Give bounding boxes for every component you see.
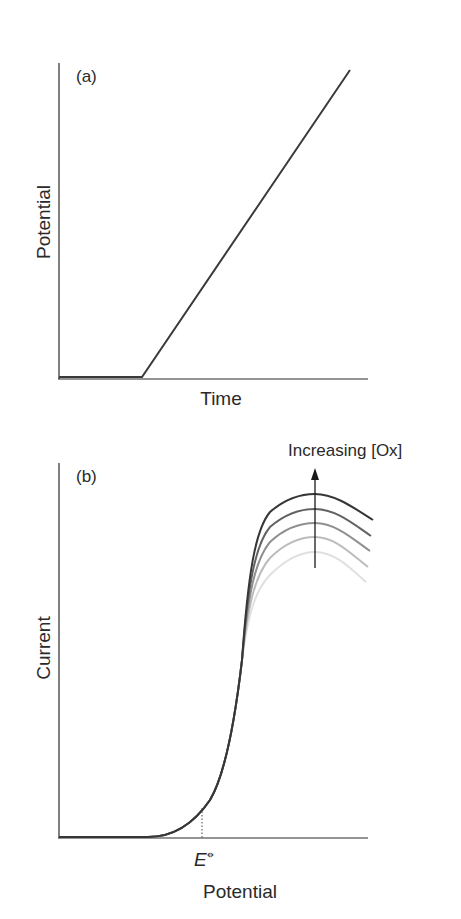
panel-b: (b) Current Potential Increasing [Ox] E … — [33, 441, 402, 902]
panel-a-ylabel: Potential — [33, 185, 54, 259]
panel-a-xlabel: Time — [200, 388, 242, 409]
panel-b-label: (b) — [76, 467, 97, 486]
figure: (a) Potential Time (b) Current Potential… — [0, 0, 461, 919]
panel-b-ylabel: Current — [33, 616, 54, 680]
potential-ramp-line — [59, 70, 350, 377]
panel-b-xlabel: Potential — [203, 881, 277, 902]
increasing-ox-label: Increasing [Ox] — [288, 441, 402, 460]
panel-a: (a) Potential Time — [33, 63, 368, 409]
current-curve-5 — [59, 494, 373, 837]
e-standard-superscript: ⦵ — [206, 848, 215, 859]
panel-a-label: (a) — [76, 67, 97, 86]
arrow-up-icon — [311, 468, 319, 480]
e-standard-label: E — [194, 849, 207, 870]
